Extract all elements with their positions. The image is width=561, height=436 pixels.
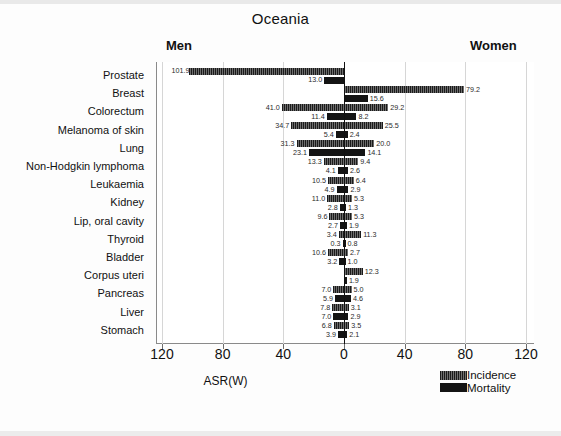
x-tick-label: 120: [150, 346, 173, 362]
bar-value-label: 25.5: [385, 122, 399, 129]
bar-incidence-women: [344, 86, 464, 93]
bar-value-label: 2.4: [350, 131, 360, 138]
bar-incidence-women: [344, 122, 383, 129]
bar-incidence-men: [334, 322, 344, 329]
bar-value-label: 0.8: [348, 240, 358, 247]
bar-value-label: 11.0: [309, 195, 325, 202]
bar-incidence-men: [328, 177, 344, 184]
bar-incidence-men: [329, 213, 344, 220]
bar-value-label: 7.8: [314, 304, 330, 311]
category-label: Prostate: [0, 69, 144, 81]
legend-item-incidence: Incidence: [440, 369, 516, 382]
chart-title: Oceania: [0, 10, 561, 27]
bar-value-label: 3.1: [351, 304, 361, 311]
bar-value-label: 101.9: [171, 67, 187, 74]
gridline-zero: [344, 62, 345, 344]
category-label: Bladder: [0, 251, 144, 263]
group-label-men: Men: [166, 38, 192, 53]
x-tick-label: 0: [340, 346, 348, 362]
bar-value-label: 2.6: [350, 167, 360, 174]
bar-value-label: 2.8: [322, 204, 338, 211]
legend-swatch-incidence: [440, 371, 467, 380]
bar-mortality-women: [344, 95, 368, 102]
bar-incidence-women: [344, 231, 361, 238]
bar-value-label: 13.0: [306, 76, 322, 83]
x-axis-tick-labels: 120804004080120: [156, 346, 534, 366]
bar-mortality-men: [327, 113, 344, 120]
bar-value-label: 41.0: [264, 104, 280, 111]
bar-value-label: 2.9: [350, 313, 360, 320]
chart-page: Oceania Men Women ProstateBreastColorect…: [0, 0, 561, 436]
bar-value-label: 4.1: [320, 167, 336, 174]
category-label: Kidney: [0, 196, 144, 208]
bar-value-label: 23.1: [291, 149, 307, 156]
bar-value-label: 2.7: [350, 249, 360, 256]
bar-value-label: 15.6: [370, 95, 384, 102]
category-label: Breast: [0, 87, 144, 99]
x-tick-label: 80: [458, 346, 474, 362]
bar-value-label: 5.0: [354, 286, 364, 293]
bar-incidence-men: [291, 122, 344, 129]
category-label: Lung: [0, 142, 144, 154]
legend-swatch-mortality: [440, 383, 467, 392]
bar-incidence-women: [344, 177, 354, 184]
bar-incidence-women: [344, 104, 388, 111]
bar-incidence-women: [344, 268, 363, 275]
bar-value-label: 1.0: [348, 258, 358, 265]
bar-mortality-men: [337, 186, 344, 193]
category-label: Stomach: [0, 324, 144, 336]
bar-mortality-men: [336, 131, 344, 138]
x-axis-title-text: ASR(W): [204, 374, 248, 388]
bar-value-label: 0.3: [325, 240, 341, 247]
bar-value-label: 10.5: [310, 177, 326, 184]
category-label: Melanoma of skin: [0, 124, 144, 136]
bar-value-label: 12.3: [365, 268, 379, 275]
legend-item-mortality: Mortality: [440, 382, 516, 395]
category-label: Pancreas: [0, 287, 144, 299]
bar-value-label: 3.9: [320, 331, 336, 338]
bar-incidence-men: [324, 158, 344, 165]
bar-incidence-men: [332, 304, 344, 311]
bar-value-label: 4.9: [319, 186, 335, 193]
bar-value-label: 1.9: [349, 222, 359, 229]
bar-mortality-women: [344, 149, 365, 156]
category-label: Corpus uteri: [0, 269, 144, 281]
bar-mortality-men: [335, 295, 344, 302]
legend-label-mortality: Mortality: [467, 382, 510, 395]
category-label: Liver: [0, 306, 144, 318]
bar-mortality-men: [324, 77, 344, 84]
bar-incidence-women: [344, 158, 358, 165]
bar-value-label: 3.2: [321, 258, 337, 265]
bar-value-label: 11.3: [363, 231, 376, 238]
x-tick-label: 40: [397, 346, 413, 362]
bar-value-label: 6.4: [356, 177, 366, 184]
bar-value-label: 5.3: [354, 195, 364, 202]
bar-value-label: 4.6: [353, 295, 363, 302]
bar-value-label: 20.0: [376, 140, 390, 147]
bar-value-label: 7.0: [315, 313, 331, 320]
x-tick-label: 40: [276, 346, 292, 362]
category-label: Leukaemia: [0, 178, 144, 190]
plot-area: 101.913.079.215.641.029.211.48.234.725.5…: [156, 62, 534, 344]
bar-value-label: 10.6: [310, 249, 326, 256]
chart-legend: Incidence Mortality: [440, 369, 516, 394]
bar-value-label: 1.9: [349, 277, 359, 284]
bar-incidence-men: [189, 68, 344, 75]
bar-mortality-women: [344, 113, 356, 120]
bar-value-label: 1.3: [348, 204, 358, 211]
category-label: Non-Hodgkin lymphoma: [0, 160, 144, 172]
bar-value-label: 3.4: [321, 231, 337, 238]
legend-label-incidence: Incidence: [467, 369, 516, 382]
bar-incidence-men: [297, 140, 344, 147]
bar-value-label: 11.4: [309, 113, 325, 120]
bar-value-label: 7.0: [315, 286, 331, 293]
bar-value-label: 2.7: [322, 222, 338, 229]
bar-value-label: 13.3: [306, 158, 322, 165]
bar-value-label: 2.9: [350, 186, 360, 193]
bar-value-label: 9.4: [360, 158, 370, 165]
bar-incidence-men: [328, 249, 344, 256]
group-label-women: Women: [470, 38, 517, 53]
bar-incidence-men: [327, 195, 344, 202]
scan-edge-bottom: [0, 431, 561, 436]
bar-value-label: 8.2: [358, 113, 368, 120]
